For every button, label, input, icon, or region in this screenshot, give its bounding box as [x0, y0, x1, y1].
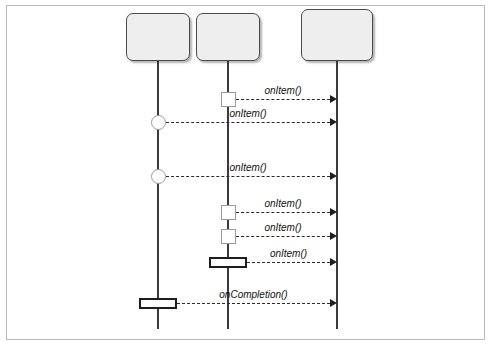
message-line [236, 212, 330, 213]
message-line [247, 262, 330, 263]
sequence-diagram-root: onItem()onItem()onItem()onItem()onItem()… [0, 0, 492, 347]
message-label: onItem() [188, 162, 308, 173]
lifeline-header-circles[interactable] [126, 13, 190, 61]
message-arrowhead [330, 258, 337, 266]
lifeline-circles [157, 61, 159, 329]
event-marker-completion-bar [139, 298, 177, 309]
message-arrowhead [330, 172, 337, 180]
lifeline-header-observer[interactable] [301, 9, 373, 61]
message-arrowhead [330, 232, 337, 240]
message-label: onItem() [223, 85, 343, 96]
message-label: onItem() [188, 108, 308, 119]
lifeline-header-squares[interactable] [196, 13, 260, 61]
message-line [177, 303, 330, 304]
message-label: onItem() [223, 198, 343, 209]
message-label: onCompletion() [194, 289, 314, 300]
message-line [166, 176, 330, 177]
event-marker-circle [151, 169, 166, 184]
diagram-canvas: onItem()onItem()onItem()onItem()onItem()… [0, 0, 492, 347]
message-line [166, 122, 330, 123]
message-arrowhead [330, 118, 337, 126]
message-line [236, 236, 330, 237]
message-arrowhead [330, 95, 337, 103]
event-marker-circle [151, 115, 166, 130]
message-label: onItem() [229, 248, 349, 259]
message-label: onItem() [223, 222, 343, 233]
message-arrowhead [330, 299, 337, 307]
message-line [236, 99, 330, 100]
message-arrowhead [330, 208, 337, 216]
